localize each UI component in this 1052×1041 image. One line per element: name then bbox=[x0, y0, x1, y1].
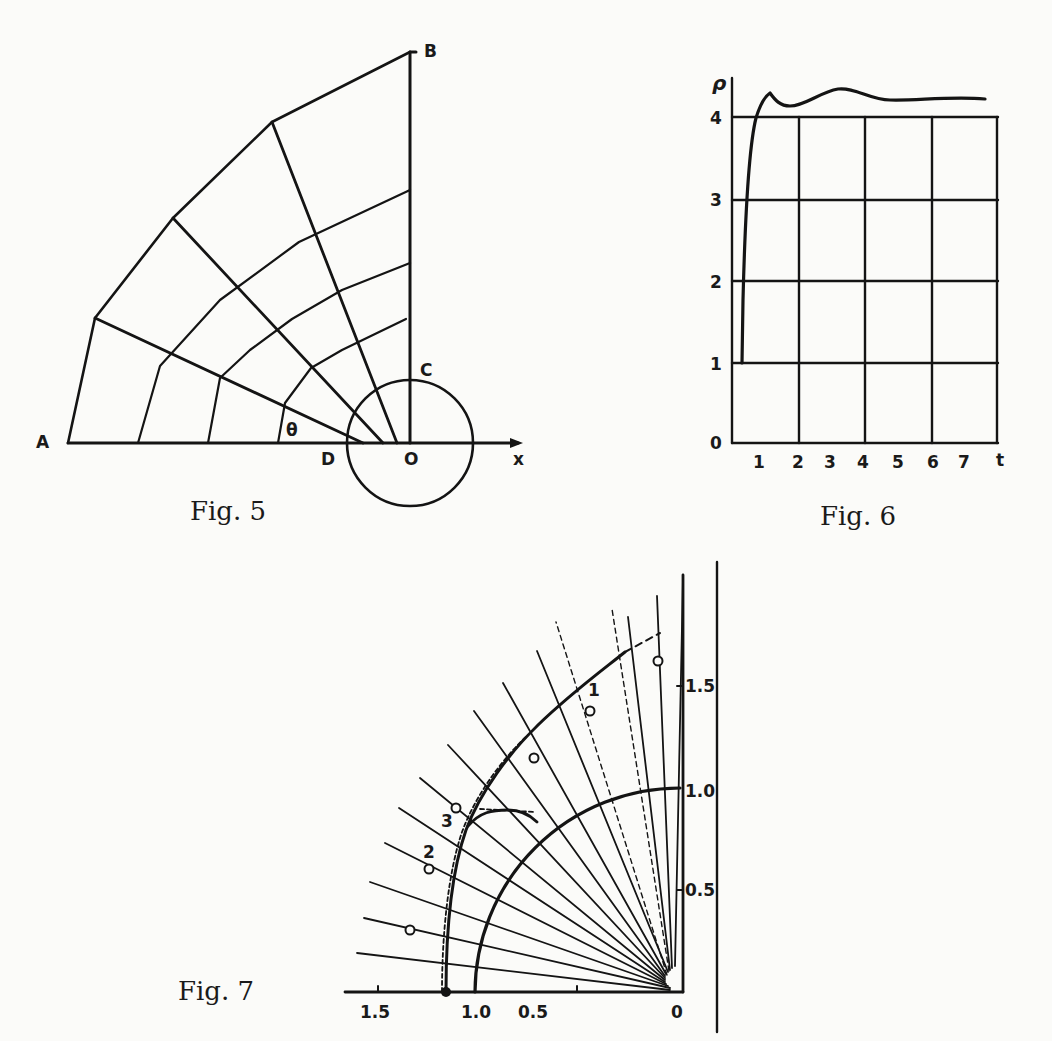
fig6-xtick: 2 bbox=[792, 452, 804, 472]
fig6-ytick: 0 bbox=[710, 433, 722, 453]
fig6-xlabel: t bbox=[996, 450, 1004, 470]
document-page: A B C D O x θ Fig. 5 0 1 2 3 4 ρ 1 2 3 4… bbox=[0, 0, 1052, 1041]
fig7-xtick: 0 bbox=[671, 1002, 683, 1022]
fig7-point-label: 3 bbox=[441, 811, 453, 831]
fig7-point-label: 2 bbox=[423, 842, 435, 862]
fig7-caption: Fig. 7 bbox=[178, 976, 254, 1006]
label-B: B bbox=[424, 41, 437, 61]
fig6-chart: 0 1 2 3 4 ρ 1 2 3 4 5 6 7 t Fig. 6 bbox=[710, 71, 1004, 531]
fig7-xtick: 1.5 bbox=[360, 1002, 390, 1022]
fig6-ytick: 1 bbox=[710, 354, 722, 374]
label-D: D bbox=[321, 449, 335, 469]
fig6-caption: Fig. 6 bbox=[820, 501, 896, 531]
fig6-ylabel: ρ bbox=[712, 71, 726, 95]
fig7-point-label: 1 bbox=[588, 680, 600, 700]
fig7-ytick: 1.0 bbox=[685, 781, 715, 801]
fig6-xtick: 7 bbox=[958, 452, 970, 472]
fig6-xtick: 3 bbox=[824, 452, 836, 472]
label-O: O bbox=[404, 449, 418, 469]
fig6-ytick: 4 bbox=[710, 108, 722, 128]
fig6-xtick: 5 bbox=[892, 452, 904, 472]
fig5-caption: Fig. 5 bbox=[190, 496, 266, 526]
fig7-xtick: 1.0 bbox=[461, 1002, 491, 1022]
x-axis-arrow-icon bbox=[510, 438, 523, 448]
label-A: A bbox=[36, 432, 50, 452]
fig7-ytick: 1.5 bbox=[685, 676, 715, 696]
fig7-xtick: 0.5 bbox=[518, 1002, 548, 1022]
label-theta: θ bbox=[286, 420, 298, 440]
fig5-diagram: A B C D O x θ Fig. 5 bbox=[36, 41, 524, 526]
fig7-diagram: 1 2 3 1.5 1.0 0.5 0 0.5 1.0 1.5 Fig. 7 bbox=[178, 562, 717, 1032]
fig7-ytick: 0.5 bbox=[685, 880, 715, 900]
fig6-xtick: 4 bbox=[857, 452, 869, 472]
fig6-curve bbox=[742, 89, 985, 363]
label-C: C bbox=[420, 360, 432, 380]
label-x: x bbox=[513, 449, 524, 469]
fig6-ytick: 3 bbox=[710, 190, 722, 210]
fig6-xtick: 1 bbox=[753, 452, 765, 472]
figures-canvas: A B C D O x θ Fig. 5 0 1 2 3 4 ρ 1 2 3 4… bbox=[0, 0, 1052, 1041]
fig6-ytick: 2 bbox=[710, 272, 722, 292]
fig6-xtick: 6 bbox=[927, 452, 939, 472]
